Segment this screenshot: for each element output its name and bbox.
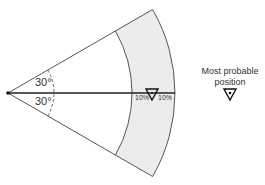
sector-diagram: [0, 0, 265, 185]
legend-marker-icon: [224, 89, 236, 100]
angle-lower-label: 30°: [35, 95, 52, 107]
legend-title: Most probable position: [200, 66, 260, 88]
origin-point: [6, 91, 10, 95]
legend-line-2: position: [200, 77, 260, 88]
percent-right-label: 10%: [158, 94, 172, 101]
percent-left-label: 10%: [135, 94, 149, 101]
angle-upper-label: 30°: [35, 76, 52, 88]
legend-line-1: Most probable: [200, 66, 260, 77]
